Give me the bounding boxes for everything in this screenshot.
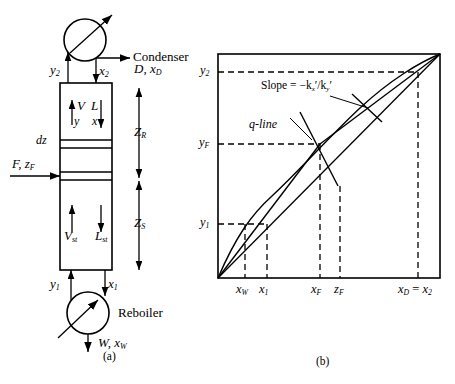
vapor-top-label: y2: [50, 63, 60, 76]
rect-vapor-comp-label: y: [74, 115, 79, 127]
feed-label: F, zF: [12, 157, 35, 170]
y-tick-yF: yF: [199, 136, 209, 149]
q-line: [300, 112, 338, 186]
strip-height-label: ZS: [134, 216, 145, 229]
slope-leader-line: [330, 96, 368, 108]
slope-annotation: Slope = −kx′/ky′: [261, 80, 332, 92]
reboiler-unit: [67, 292, 109, 334]
y-tick-y2: y2: [200, 64, 209, 77]
q-line-annotation: q-line: [249, 118, 277, 130]
distillate-label: D, xD: [134, 62, 161, 75]
x-tick-xW: xW: [236, 283, 248, 296]
stripping-operating-line: [218, 144, 320, 278]
bottoms-label: W, xW: [98, 336, 127, 349]
reboiler-label: Reboiler: [118, 306, 163, 319]
y-tick-y1: y1: [200, 216, 209, 229]
rect-liquid-comp-label: x: [92, 115, 97, 127]
x-tick-xF: xF: [311, 283, 321, 296]
strip-vapor-label: Vst: [64, 229, 77, 242]
dz-label: dz: [36, 134, 47, 146]
rect-liquid-label: L: [91, 99, 98, 112]
x-tick-xD: xD = x2: [398, 283, 432, 296]
column-schematic: [10, 15, 139, 352]
rect-vapor-label: V: [77, 99, 85, 112]
rect-height-label: ZR: [134, 125, 146, 138]
strip-liquid-label: Lst: [95, 229, 108, 242]
x-tick-x1: x1: [259, 283, 268, 296]
liquid-top-label: x2: [99, 64, 109, 77]
caption-b: (b): [316, 355, 329, 367]
liquid-bottom-label: x1: [108, 277, 118, 290]
vapor-bottom-label: y1: [50, 277, 60, 290]
distillation-figure: [0, 0, 455, 384]
x-tick-zF: zF: [334, 283, 344, 296]
caption-a: (a): [103, 350, 116, 362]
